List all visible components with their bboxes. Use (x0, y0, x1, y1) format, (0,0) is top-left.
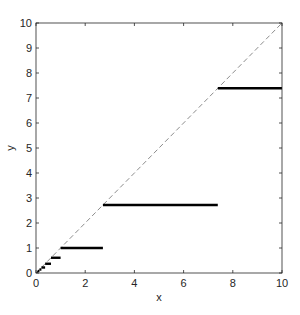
y-tick-label: 6 (26, 117, 32, 129)
x-tick-label: 8 (230, 277, 236, 289)
y-tick-label: 10 (20, 17, 32, 29)
y-tick-label: 2 (26, 217, 32, 229)
y-tick-label: 7 (26, 92, 32, 104)
chart: 0246810 012345678910 x y (0, 0, 300, 315)
y-tick-label: 0 (26, 267, 32, 279)
x-tick-label: 2 (82, 277, 88, 289)
x-axis-label: x (156, 291, 162, 303)
x-tick-label: 10 (276, 277, 288, 289)
y-tick-label: 3 (26, 192, 32, 204)
x-tick-label: 6 (181, 277, 187, 289)
y-tick-label: 9 (26, 42, 32, 54)
y-tick-label: 1 (26, 242, 32, 254)
y-tick-label: 5 (26, 142, 32, 154)
y-tick-label: 4 (26, 167, 32, 179)
x-tick-label: 4 (131, 277, 137, 289)
y-tick-label: 8 (26, 67, 32, 79)
x-tick-label: 0 (33, 277, 39, 289)
y-axis-label: y (4, 145, 16, 151)
